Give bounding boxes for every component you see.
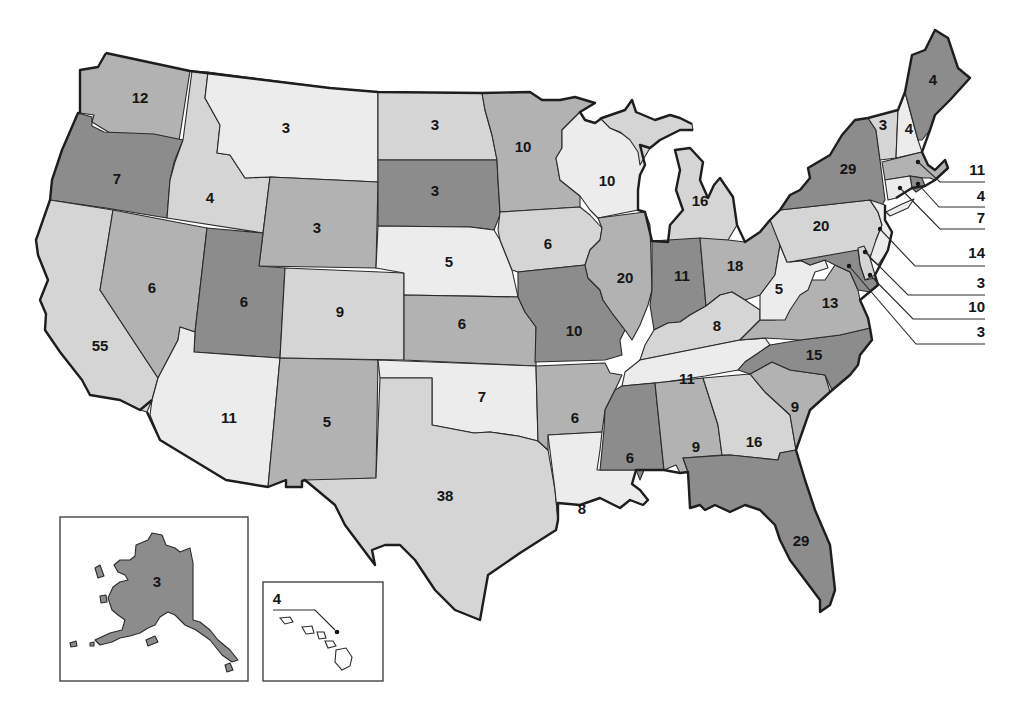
svg-text:7: 7 [977,209,985,226]
label-ca: 55 [92,337,109,354]
label-ga: 16 [746,433,763,450]
label-pa: 20 [813,217,830,234]
svg-text:3: 3 [977,274,985,291]
label-mo: 10 [566,322,583,339]
label-tx: 38 [437,487,454,504]
svg-text:3: 3 [977,323,985,340]
label-fl: 29 [793,532,810,549]
label-id: 4 [206,189,215,206]
label-nm: 5 [323,413,331,430]
label-or: 7 [113,170,121,187]
label-ky: 8 [713,317,721,334]
us-electoral-map: 12 7 55 4 6 3 3 6 9 11 5 3 3 5 6 7 38 10… [0,0,1013,707]
label-sc: 9 [791,398,799,415]
label-nh: 4 [905,120,914,137]
label-me: 4 [929,71,938,88]
label-nv: 6 [148,279,156,296]
label-wi: 10 [599,172,616,189]
label-nd: 3 [431,116,439,133]
state-kansas[interactable] [404,295,536,366]
svg-text:4: 4 [977,187,986,204]
callout-nj: 14 [878,227,986,266]
label-in: 11 [674,267,690,284]
svg-text:14: 14 [968,244,985,261]
label-ia: 6 [544,235,552,252]
label-mn: 10 [515,138,532,155]
callout-md: 10 [868,273,985,319]
inset-alaska: 3 [60,517,248,681]
label-al: 9 [692,438,700,455]
label-wv: 5 [775,280,783,297]
label-wa: 12 [132,89,149,106]
label-ks: 6 [458,315,466,332]
state-long-island[interactable] [886,199,914,216]
svg-text:11: 11 [969,161,985,178]
label-oh: 18 [727,257,744,274]
label-vt: 3 [879,116,887,133]
label-va: 13 [822,294,839,311]
svg-text:10: 10 [968,298,985,315]
label-nc: 15 [806,346,823,363]
state-new-york[interactable] [780,118,885,212]
label-ok: 7 [478,388,486,405]
label-ms: 6 [626,449,634,466]
label-ar: 6 [571,409,579,426]
label-co: 9 [336,303,344,320]
label-sd: 3 [431,182,439,199]
label-ut: 6 [240,293,248,310]
label-ak: 3 [153,573,161,590]
state-maine[interactable] [905,30,970,140]
alaska-island [100,595,107,603]
inset-hawaii: 4 [263,582,383,681]
label-tn: 11 [679,370,695,387]
label-az: 11 [221,409,237,426]
label-il: 20 [617,269,634,286]
alaska-island [90,642,94,646]
label-mi: 16 [692,192,709,209]
label-hi: 4 [273,590,282,607]
label-la: 8 [578,500,586,517]
label-mt: 3 [282,119,290,136]
label-ny: 29 [840,160,857,177]
label-ne: 5 [445,253,453,270]
label-wy: 3 [313,219,321,236]
